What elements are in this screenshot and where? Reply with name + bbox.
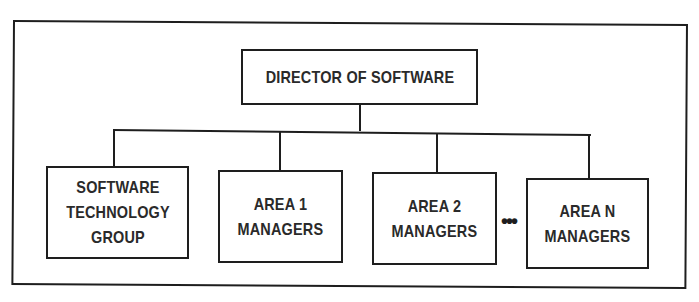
connector-area-2 (436, 133, 438, 173)
area-n-managers-box: AREA N MANAGERS (526, 178, 649, 269)
area-1-managers-label: AREA 1 MANAGERS (238, 192, 324, 242)
area-2-managers-label: AREA 2 MANAGERS (392, 194, 478, 244)
ellipsis-dots: ••• (501, 210, 516, 233)
software-technology-group-label: SOFTWARE TECHNOLOGY GROUP (66, 175, 170, 250)
connector-area-1 (279, 131, 281, 171)
area-1-managers-box: AREA 1 MANAGERS (218, 170, 343, 263)
area-2-managers-box: AREA 2 MANAGERS (372, 172, 497, 265)
software-technology-group-box: SOFTWARE TECHNOLOGY GROUP (46, 166, 189, 259)
connector-software-technology (113, 129, 115, 167)
connector-area-n (588, 134, 590, 179)
root-connector-vertical (359, 104, 361, 131)
area-n-managers-label: AREA N MANAGERS (545, 199, 631, 249)
director-of-software-label: DIRECTOR OF SOFTWARE (265, 65, 454, 90)
director-of-software-box: DIRECTOR OF SOFTWARE (241, 49, 478, 105)
